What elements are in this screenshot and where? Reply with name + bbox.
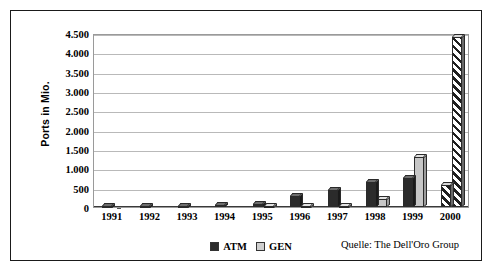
bar-face: [441, 185, 451, 207]
bar-atm-1991: [102, 206, 112, 207]
legend-item-atm: ATM: [210, 241, 247, 252]
y-axis-tick-label: 0: [43, 203, 89, 214]
x-axis-tick-label: 2000: [431, 211, 469, 227]
chart-legend: ATMGEN: [161, 238, 341, 254]
bar-gen-1995: [264, 206, 274, 207]
legend-label: ATM: [223, 241, 247, 252]
bar-atm-2000: [441, 185, 451, 207]
bar-atm-1997: [328, 190, 338, 207]
bar-atm-1992: [140, 206, 150, 207]
bar-side: [462, 34, 465, 207]
bar-atm-1994: [215, 205, 225, 207]
bar-side: [338, 187, 341, 207]
y-axis-tick-mark: [117, 208, 121, 209]
bar-face: [403, 178, 413, 207]
x-axis-tick-label: 1995: [243, 211, 281, 227]
legend-label: GEN: [269, 241, 292, 252]
bar-face: [366, 182, 376, 207]
bar-face: [301, 206, 311, 208]
bar-side: [451, 183, 454, 207]
y-axis-tick-label: 1.000: [43, 164, 89, 175]
x-axis-tick-label: 1991: [93, 211, 131, 227]
bar-side: [413, 175, 416, 207]
chart-figure: Ports in Mio. 05001.0001.5002.0002.5003.…: [10, 10, 482, 261]
bar-top: [452, 34, 465, 37]
bar-top: [328, 187, 341, 190]
source-note: Quelle: The Dell'Oro Group: [341, 239, 459, 250]
bar-atm-1999: [403, 178, 413, 207]
dark-square-icon: [210, 242, 219, 251]
bar-face: [102, 206, 112, 208]
y-axis-tick-label: 1.500: [43, 145, 89, 156]
x-axis-tick-label: 1998: [356, 211, 394, 227]
bar-face: [253, 204, 263, 207]
bar-face: [339, 206, 349, 208]
bar-gen-1997: [339, 206, 349, 207]
bar-face: [328, 190, 338, 207]
y-axis-tick-label: 2.500: [43, 106, 89, 117]
bar-atm-1993: [178, 206, 188, 207]
bar-face: [264, 206, 274, 208]
light-square-icon: [256, 242, 265, 251]
bar-gen-1996: [301, 206, 311, 207]
legend-item-gen: GEN: [256, 241, 292, 252]
bar-face: [215, 205, 225, 207]
bar-face: [290, 196, 300, 207]
bar-side: [424, 154, 427, 207]
x-axis-tick-label: 1996: [281, 211, 319, 227]
y-axis-tick-label: 3.000: [43, 87, 89, 98]
x-axis-tick-label: 1997: [319, 211, 357, 227]
bar-atm-1998: [366, 182, 376, 207]
bar-series-container: [94, 35, 468, 207]
bar-top: [178, 203, 191, 206]
y-axis-tick-labels: 05001.0001.5002.0002.5003.0003.5004.0004…: [39, 34, 89, 208]
plot-area: [93, 34, 469, 208]
y-axis-tick-label: 4.500: [43, 29, 89, 40]
bar-top: [366, 179, 379, 182]
bar-face: [140, 206, 150, 208]
x-axis-tick-label: 1992: [131, 211, 169, 227]
y-axis-tick-label: 3.500: [43, 67, 89, 78]
x-axis-tick-labels: 1991199219931994199519961997199819992000: [93, 211, 469, 227]
bar-side: [376, 179, 379, 207]
x-axis-tick-label: 1994: [206, 211, 244, 227]
bar-atm-1996: [290, 196, 300, 207]
y-axis-tick-label: 4.000: [43, 48, 89, 59]
x-axis-tick-label: 1999: [394, 211, 432, 227]
y-axis-tick-label: 500: [43, 183, 89, 194]
bar-atm-1995: [253, 204, 263, 207]
y-axis-tick-label: 2.000: [43, 125, 89, 136]
x-axis-tick-label: 1993: [168, 211, 206, 227]
